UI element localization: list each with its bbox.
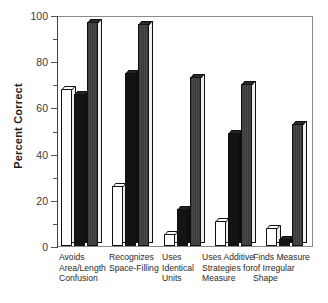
y-tick-mark [51,247,57,248]
bar-group [61,15,98,246]
bar-black-1 [74,94,85,246]
x-category-label-line: Confusion [59,273,106,284]
x-category-label-line: Space-Filling [109,263,159,274]
x-category-label-line: Avoids [59,252,106,263]
y-minor-tick-mark [53,178,57,179]
bar-white-4 [215,221,226,246]
y-minor-tick-mark [53,85,57,86]
bar-face [74,94,85,246]
x-category-label-line: of Irregular [253,263,310,274]
bar-face [228,133,239,246]
bar-black-3 [177,209,188,246]
x-category-label-line: Units [162,273,194,284]
x-category-label-4: Uses AdditiveStrategies forMeasure [202,252,254,284]
bar-face [190,77,201,246]
bar-white-2 [112,186,123,246]
y-tick-label: 40 [22,149,48,161]
bar-chart-figure: Percent Correct 020406080100 AvoidsArea/… [0,0,328,303]
y-tick-label: 100 [22,10,48,22]
y-tick-label: 0 [22,241,48,253]
x-axis-category-labels: AvoidsArea/LengthConfusionRecognizesSpac… [57,252,313,298]
bar-group [164,15,201,246]
x-category-label-2: RecognizesSpace-Filling [109,252,159,273]
bar-side [149,21,153,243]
y-tick-mark [51,108,57,109]
bar-white-5 [266,228,277,246]
bar-face [112,186,123,246]
bar-face [177,209,188,246]
x-category-label-5: Finds Measureof IrregularShape [253,252,310,284]
x-category-label-line: Recognizes [109,252,159,263]
bar-face [279,239,290,246]
bar-face [292,124,303,246]
bar-face [215,221,226,246]
bar-face [125,73,136,246]
bar-side [252,81,256,243]
y-minor-tick-mark [53,39,57,40]
x-category-label-1: AvoidsArea/LengthConfusion [59,252,106,284]
bar-group [215,15,252,246]
y-minor-tick-mark [53,132,57,133]
y-tick-label: 80 [22,56,48,68]
bar-face [266,228,277,246]
x-category-label-line: Area/Length [59,263,106,274]
y-axis-line [57,16,58,248]
bar-side [98,19,102,243]
x-category-label-line: Identical [162,263,194,274]
bar-face [138,24,149,246]
x-category-label-line: Shape [253,273,310,284]
bar-dark-gray-1 [87,22,98,246]
bar-face [241,84,252,246]
bar-side [201,74,205,243]
bar-side [303,121,307,243]
bar-face [87,22,98,246]
y-tick-label: 60 [22,102,48,114]
y-axis-tick-labels: 020406080100 [22,0,48,303]
y-minor-tick-mark [53,224,57,225]
x-category-label-line: Measure [202,273,254,284]
bar-dark-gray-2 [138,24,149,246]
bar-dark-gray-3 [190,77,201,246]
y-tick-label: 20 [22,195,48,207]
bar-white-3 [164,234,175,246]
bar-dark-gray-5 [292,124,303,246]
y-tick-mark [51,201,57,202]
bar-group [112,15,149,246]
bar-black-2 [125,73,136,246]
bar-group [266,15,303,246]
bar-black-5 [279,239,290,246]
bar-white-1 [61,89,72,246]
plot-area [57,16,313,247]
bar-black-4 [228,133,239,246]
y-tick-mark [51,155,57,156]
y-tick-mark [51,62,57,63]
x-category-label-line: Uses Additive [202,252,254,263]
y-tick-mark [51,16,57,17]
x-category-label-line: Uses [162,252,194,263]
bar-dark-gray-4 [241,84,252,246]
bar-face [61,89,72,246]
x-category-label-line: Finds Measure [253,252,310,263]
x-category-label-3: UsesIdenticalUnits [162,252,194,284]
x-category-label-line: Strategies for [202,263,254,274]
bar-face [164,234,175,246]
